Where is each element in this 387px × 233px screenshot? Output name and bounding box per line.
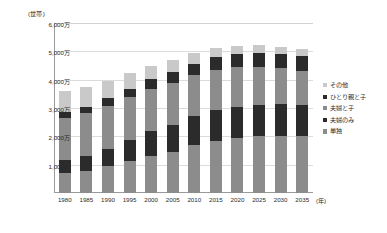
bar-segment — [253, 45, 265, 53]
bar-segment — [210, 48, 222, 57]
legend-item: 夫婦と子 — [323, 105, 366, 111]
stacked-bar-chart: (世帯) 6,000万5,000万4,000万3,000万2,000万1,000… — [0, 0, 387, 233]
legend-item: 夫婦のみ — [323, 117, 366, 123]
legend-item: その他 — [323, 82, 366, 88]
bar-segment — [231, 67, 243, 107]
bar-segment — [145, 89, 157, 131]
legend-item-label: その他 — [330, 82, 348, 88]
bar-segment — [231, 46, 243, 54]
bar-column — [145, 66, 157, 193]
bar-column — [80, 87, 92, 193]
bar-segment — [59, 173, 71, 193]
bar-segment — [296, 105, 308, 135]
x-axis-unit-label: (年) — [316, 196, 326, 205]
bar-segment — [145, 79, 157, 89]
bar-group — [54, 23, 313, 193]
bar-segment — [210, 57, 222, 70]
bar-segment — [124, 97, 136, 140]
bar-segment — [124, 89, 136, 97]
bar-segment — [253, 136, 265, 193]
bar-segment — [124, 140, 136, 162]
bar-segment — [275, 136, 287, 193]
y-axis-tick-label: 6,000万 — [26, 20, 70, 29]
y-axis-unit-label: (世帯) — [28, 9, 45, 18]
bar-segment — [167, 60, 179, 72]
bar-segment — [296, 71, 308, 106]
bar-column — [231, 46, 243, 193]
bar-segment — [80, 156, 92, 171]
legend-item-label: 夫婦のみ — [330, 117, 354, 123]
bar-segment — [102, 81, 114, 99]
bar-segment — [188, 75, 200, 116]
legend-item-label: ひとり親と子 — [330, 94, 366, 100]
bar-segment — [145, 156, 157, 193]
bar-column — [210, 48, 222, 193]
bar-column — [296, 49, 308, 193]
bar-segment — [296, 136, 308, 193]
bar-segment — [231, 107, 243, 138]
bar-segment — [102, 149, 114, 167]
legend-swatch-icon — [323, 129, 327, 133]
y-axis-tick-label: 1,000万 — [26, 162, 70, 171]
y-axis-tick-label: 2,000万 — [26, 133, 70, 142]
bar-segment — [275, 54, 287, 68]
bar-segment — [210, 141, 222, 193]
bar-segment — [145, 131, 157, 156]
legend: その他ひとり親と子夫婦と子夫婦のみ単独 — [323, 82, 366, 135]
bar-segment — [167, 152, 179, 193]
bar-segment — [167, 72, 179, 83]
bar-column — [124, 73, 136, 193]
bar-segment — [275, 104, 287, 135]
legend-swatch-icon — [323, 106, 327, 110]
bar-segment — [102, 166, 114, 193]
bar-segment — [80, 87, 92, 107]
bar-segment — [188, 145, 200, 193]
x-axis-tick-label: 2035 — [285, 196, 319, 203]
y-axis-tick-label: 3,000万 — [26, 105, 70, 114]
bar-column — [188, 53, 200, 193]
bar-segment — [210, 70, 222, 110]
y-axis-tick-label: 5,000万 — [26, 48, 70, 57]
bar-segment — [231, 138, 243, 193]
bar-column — [102, 81, 114, 193]
y-axis-tick-label: 4,000万 — [26, 77, 70, 86]
bar-segment — [124, 161, 136, 193]
bar-segment — [188, 53, 200, 63]
bar-segment — [167, 125, 179, 152]
bar-segment — [188, 64, 200, 76]
bar-column — [253, 45, 265, 193]
legend-swatch-icon — [323, 118, 327, 122]
bar-segment — [253, 67, 265, 105]
bar-segment — [253, 53, 265, 67]
legend-swatch-icon — [323, 83, 327, 87]
bar-segment — [80, 171, 92, 193]
bar-segment — [253, 105, 265, 137]
bar-segment — [296, 49, 308, 56]
legend-item-label: 夫婦と子 — [330, 105, 354, 111]
bar-segment — [275, 47, 287, 54]
bar-segment — [210, 110, 222, 140]
bar-segment — [188, 116, 200, 145]
bar-segment — [145, 66, 157, 80]
bar-segment — [167, 83, 179, 124]
legend-item: ひとり親と子 — [323, 94, 366, 100]
legend-item-label: 単独 — [330, 128, 342, 134]
legend-item: 単独 — [323, 128, 366, 134]
bar-column — [167, 60, 179, 193]
bar-segment — [275, 68, 287, 104]
bar-segment — [124, 73, 136, 89]
bar-column — [275, 47, 287, 193]
bar-segment — [102, 106, 114, 149]
legend-swatch-icon — [323, 95, 327, 99]
bar-segment — [231, 54, 243, 67]
bar-segment — [296, 56, 308, 70]
bar-segment — [80, 113, 92, 156]
bar-segment — [102, 98, 114, 105]
